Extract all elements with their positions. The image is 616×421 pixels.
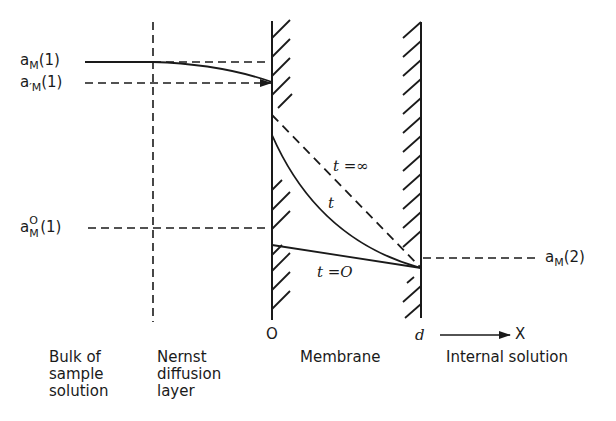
label-aM1-prime: a′M(1) (20, 74, 62, 96)
membrane-potential-diagram: aM(1) a′M(1) aOM(1) aM(2) t =∞ t t =O O … (0, 0, 616, 421)
region-bulk-line2: sample (49, 366, 108, 383)
label-aM1-prime-sub: M (32, 81, 42, 94)
label-aM2-base: a (545, 248, 554, 266)
label-t-infinity: t =∞ (333, 158, 369, 175)
label-aM1-prime-base: a (20, 73, 29, 91)
region-internal-line1: Internal solution (446, 349, 568, 366)
region-nernst-line3: layer (157, 383, 221, 400)
region-internal-solution: Internal solution (446, 349, 568, 366)
label-aM1-prime-tail: (1) (41, 73, 62, 91)
label-aM0: aOM(1) (20, 219, 61, 236)
label-t: t (328, 195, 334, 212)
label-aM0-base: a (20, 218, 29, 236)
region-nernst-line2: diffusion (157, 366, 221, 383)
label-aM1-base: a (20, 51, 29, 69)
bulk-activity-curve (85, 62, 272, 82)
region-bulk-line1: Bulk of (49, 349, 108, 366)
axis-d-label: d (415, 327, 425, 344)
label-aM1-sub: M (29, 59, 39, 72)
region-bulk-line3: solution (49, 383, 108, 400)
region-bulk-solution: Bulk of sample solution (49, 349, 108, 400)
label-aM0-sub: M (29, 225, 39, 242)
axis-origin-label: O (266, 326, 278, 343)
label-t-zero: t =O (317, 264, 353, 281)
membrane-right-hatching (403, 22, 421, 318)
profile-t-infinity (272, 115, 421, 268)
label-aM2: aM(2) (545, 249, 585, 271)
label-aM1: aM(1) (20, 52, 60, 74)
label-aM2-sub: M (554, 256, 564, 269)
region-membrane-line1: Membrane (300, 349, 380, 366)
region-membrane: Membrane (300, 349, 380, 366)
axis-x-label: X (515, 326, 525, 343)
label-aM2-tail: (2) (564, 248, 585, 266)
label-aM1-tail: (1) (39, 51, 60, 69)
label-aM0-tail: (1) (40, 218, 61, 236)
region-nernst-line1: Nernst (157, 349, 221, 366)
region-nernst-layer: Nernst diffusion layer (157, 349, 221, 400)
membrane-left-hatching (272, 20, 292, 309)
